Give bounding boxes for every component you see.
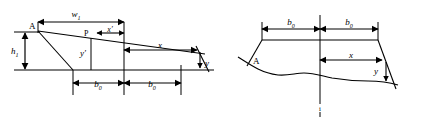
- left-label-x: x: [157, 40, 162, 50]
- right-label-b0-right: b0: [345, 17, 353, 29]
- right-label-x: x: [348, 50, 353, 60]
- left-label-x-prime: x′: [106, 25, 113, 34]
- left-label-b0-left: b0: [94, 79, 102, 91]
- left-label-w1: w1: [71, 9, 80, 21]
- figure-svg: w1 h1 A P x′ y′ x y b0 b0: [0, 0, 428, 127]
- right-label-point-a: A: [253, 56, 260, 66]
- left-label-h1: h1: [11, 46, 19, 58]
- figure-root: w1 h1 A P x′ y′ x y b0 b0: [0, 0, 428, 127]
- left-label-point-p: P: [84, 29, 89, 38]
- left-label-y: y: [204, 58, 209, 68]
- right-label-y: y: [373, 66, 378, 76]
- left-label-y-prime: y′: [79, 48, 87, 58]
- right-label-centerline-mark: i: [319, 105, 321, 113]
- right-label-b0-left: b0: [287, 17, 295, 29]
- left-label-b0-right: b0: [148, 79, 156, 91]
- left-slope-face: [38, 31, 73, 70]
- left-label-point-a: A: [29, 21, 36, 31]
- right-diagram: b0 b0 A x y i: [238, 15, 398, 117]
- left-diagram: w1 h1 A P x′ y′ x y b0 b0: [11, 9, 214, 95]
